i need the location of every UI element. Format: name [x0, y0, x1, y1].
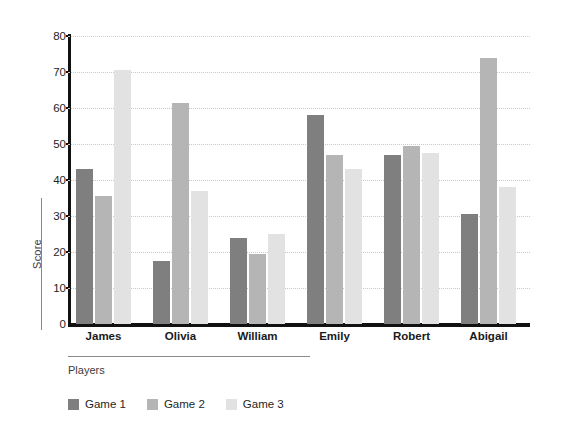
bar-group	[230, 36, 285, 324]
plot-area	[68, 36, 530, 324]
bar	[461, 214, 478, 324]
bar	[95, 196, 112, 324]
bar	[345, 169, 362, 324]
bar	[480, 58, 497, 324]
x-axis-title-rule	[68, 356, 310, 357]
bar-group	[461, 36, 516, 324]
legend-item[interactable]: Game 3	[226, 398, 284, 410]
bar	[499, 187, 516, 324]
bar	[114, 70, 131, 324]
bar-group	[384, 36, 439, 324]
bar	[76, 169, 93, 324]
x-axis-category-label: William	[237, 330, 277, 342]
bar	[403, 146, 420, 324]
bar	[422, 153, 439, 324]
bar	[326, 155, 343, 324]
bar	[268, 234, 285, 324]
bar-group	[307, 36, 362, 324]
legend-swatch	[147, 399, 158, 410]
x-axis-category-label: James	[86, 330, 122, 342]
bar	[307, 115, 324, 324]
legend-swatch	[68, 399, 79, 410]
x-axis-category-label: Emily	[319, 330, 350, 342]
bar	[249, 254, 266, 324]
bar-group	[153, 36, 208, 324]
x-axis-category-label: Olivia	[165, 330, 196, 342]
legend-item[interactable]: Game 1	[68, 398, 126, 410]
bar	[384, 155, 401, 324]
bar-chart: Score 01020304050607080 JamesOliviaWilli…	[0, 0, 564, 430]
bar-group	[76, 36, 131, 324]
legend-label: Game 1	[85, 398, 126, 410]
legend-item[interactable]: Game 2	[147, 398, 205, 410]
x-axis-category-label: Abigail	[469, 330, 507, 342]
y-axis-tick-marks	[36, 36, 72, 324]
x-axis-category-labels: JamesOliviaWilliamEmilyRobertAbigail	[68, 330, 530, 348]
legend-label: Game 2	[164, 398, 205, 410]
bars-layer	[68, 36, 530, 324]
bar	[191, 191, 208, 324]
bar	[172, 103, 189, 324]
x-axis-title: Players	[68, 364, 105, 376]
legend: Game 1Game 2Game 3	[68, 398, 296, 410]
x-axis-category-label: Robert	[393, 330, 430, 342]
legend-label: Game 3	[243, 398, 284, 410]
bar	[230, 238, 247, 324]
legend-swatch	[226, 399, 237, 410]
bar	[153, 261, 170, 324]
